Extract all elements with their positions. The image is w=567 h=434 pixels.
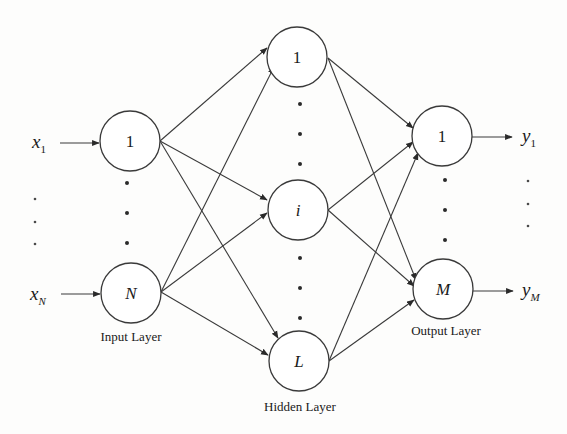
input-var-x1: x1 [31, 131, 46, 155]
hidden-node-i: i [268, 180, 328, 240]
hidden-node-1: 1 [267, 27, 327, 87]
edge-in1-hi [160, 141, 267, 200]
hidden-layer-label: Hidden Layer [264, 399, 337, 414]
input-node-1-label: 1 [126, 132, 135, 151]
output-node-1: 1 [412, 106, 472, 166]
edge-hi-oM [328, 210, 414, 286]
edge-inN-h1 [161, 67, 274, 292]
hidden-node-L: L [269, 331, 329, 391]
output-var-ellipsis [527, 180, 530, 228]
input-variables: x1 xN [29, 131, 46, 307]
output-var-y1: y1 [520, 125, 536, 149]
output-node-1-label: 1 [438, 127, 447, 146]
edge-h1-oM [328, 58, 416, 280]
input-layer: 1 N Input Layer [100, 111, 162, 344]
output-variables: y1 yM [520, 125, 540, 303]
output-layer-label: Output Layer [411, 323, 481, 338]
input-var-xN: xN [29, 283, 46, 307]
input-layer-label: Input Layer [100, 329, 162, 344]
hidden-output-edges [328, 58, 418, 361]
input-hidden-edges [160, 48, 278, 355]
edge-hL-o1 [329, 153, 418, 361]
output-var-yM: yM [520, 279, 540, 303]
neural-network-diagram: 1 N Input Layer 1 i [0, 0, 567, 434]
edge-in1-h1 [160, 48, 267, 141]
edge-in1-hL [160, 141, 278, 338]
output-node-M: M [413, 259, 473, 319]
output-node-M-label: M [435, 280, 451, 299]
output-ellipsis [443, 178, 447, 242]
output-layer: 1 M Output Layer [411, 106, 481, 338]
input-ellipsis [125, 181, 129, 245]
edge-h1-o1 [328, 58, 413, 128]
input-node-1: 1 [100, 111, 160, 171]
input-var-ellipsis [34, 198, 37, 246]
input-arrows [60, 143, 100, 294]
hidden-ellipsis-upper [298, 102, 302, 166]
hidden-node-L-label: L [293, 352, 303, 371]
hidden-node-i-label: i [296, 201, 301, 220]
hidden-node-1-label: 1 [293, 48, 302, 67]
input-node-N-label: N [124, 284, 138, 303]
output-arrows [472, 137, 513, 291]
input-node-N: N [101, 263, 161, 323]
edge-inN-hi [161, 213, 267, 292]
edge-hi-o1 [328, 142, 413, 210]
hidden-ellipsis-lower [298, 256, 302, 320]
edge-inN-hL [161, 292, 268, 355]
hidden-layer: 1 i L Hidden Layer [264, 27, 337, 414]
